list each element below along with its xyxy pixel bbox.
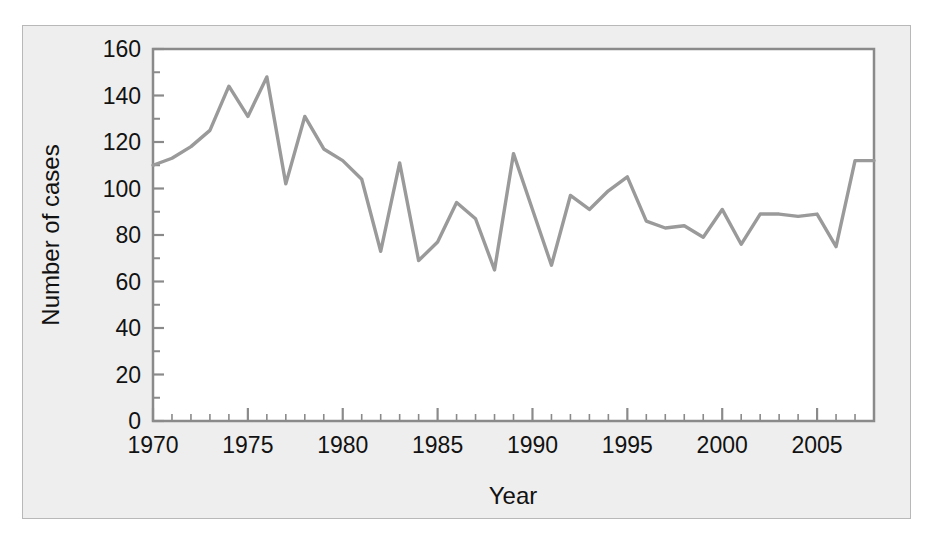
x-axis-tick-label: 1970: [127, 432, 178, 458]
y-axis-tick-label: 20: [115, 362, 141, 388]
x-axis-tick-label: 1995: [602, 432, 653, 458]
line-chart: 020406080100120140160 197019751980198519…: [23, 26, 912, 520]
y-axis-tick-label: 140: [103, 83, 141, 109]
y-axis-tick-label: 60: [115, 269, 141, 295]
y-axis-tick-label: 100: [103, 176, 141, 202]
y-axis-tick-label: 120: [103, 129, 141, 155]
x-axis-tick-labels: 19701975198019851990199520002005: [127, 432, 842, 458]
y-axis-tick-label: 40: [115, 315, 141, 341]
x-axis-tick-label: 1990: [507, 432, 558, 458]
y-axis-tick-labels: 020406080100120140160: [103, 36, 141, 434]
plot-area-background: [153, 49, 874, 421]
x-axis-tick-label: 1975: [222, 432, 273, 458]
figure-container: 020406080100120140160 197019751980198519…: [0, 0, 933, 545]
x-axis-tick-label: 1980: [317, 432, 368, 458]
figure-frame: 020406080100120140160 197019751980198519…: [22, 25, 911, 519]
x-axis-tick-label: 2005: [791, 432, 842, 458]
y-axis-tick-label: 0: [128, 408, 141, 434]
x-axis-tick-label: 1985: [412, 432, 463, 458]
y-axis-tick-label: 160: [103, 36, 141, 62]
y-axis-tick-label: 80: [115, 222, 141, 248]
y-axis-title: Number of cases: [37, 144, 64, 325]
x-axis-tick-label: 2000: [697, 432, 748, 458]
x-axis-title: Year: [489, 482, 538, 509]
